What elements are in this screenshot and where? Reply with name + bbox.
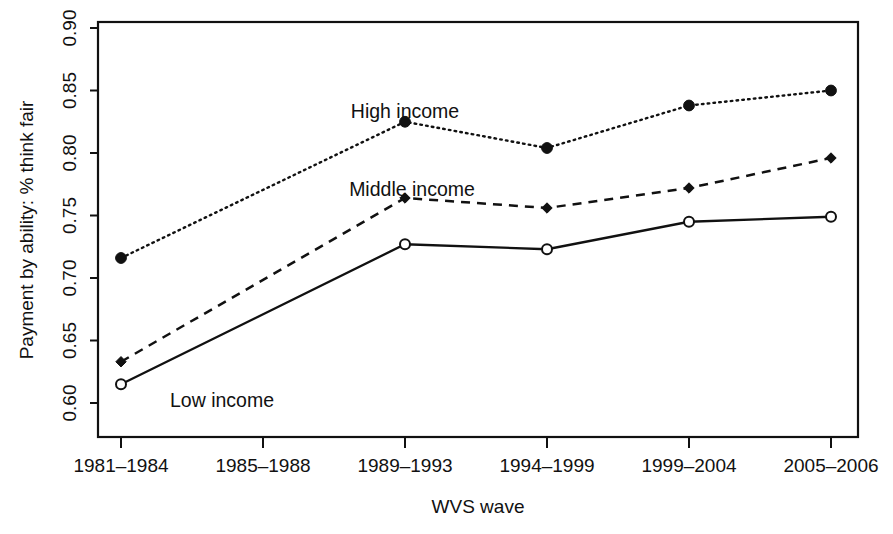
data-point <box>826 153 836 163</box>
x-tick-label-3: 1989–1993 <box>357 455 452 476</box>
data-point <box>116 253 127 264</box>
y-tick-label-0.85: 0.85 <box>59 72 80 109</box>
plot-area-border <box>98 22 858 437</box>
data-point <box>542 244 552 254</box>
y-tick-label-0.70: 0.70 <box>59 260 80 297</box>
y-tick-label-0.65: 0.65 <box>59 322 80 359</box>
series-label-low-income: Low income <box>170 389 274 411</box>
series-label-high-income: High income <box>351 100 459 122</box>
x-axis-ticks <box>121 437 831 448</box>
data-point <box>826 212 836 222</box>
data-point <box>116 379 126 389</box>
y-tick-label-0.75: 0.75 <box>59 197 80 234</box>
x-tick-label-2: 1985–1988 <box>215 455 310 476</box>
x-axis-tick-labels: 1981–1984 1985–1988 1989–1993 1994–1999 … <box>73 455 878 476</box>
chart-figure: 0.90 0.85 0.80 0.75 0.70 0.65 0.60 Payme… <box>0 0 893 534</box>
data-point <box>684 100 695 111</box>
data-point <box>684 217 694 227</box>
data-point <box>542 203 552 213</box>
data-point <box>684 183 694 193</box>
series-label-middle-income: Middle income <box>349 178 475 200</box>
x-axis-title: WVS wave <box>432 496 525 517</box>
y-axis-tick-labels: 0.90 0.85 0.80 0.75 0.70 0.65 0.60 <box>59 10 80 422</box>
series-layer <box>116 85 837 389</box>
data-point <box>542 143 553 154</box>
x-tick-label-1: 1981–1984 <box>73 455 169 476</box>
x-tick-label-4: 1994–1999 <box>499 455 594 476</box>
line-chart: 0.90 0.85 0.80 0.75 0.70 0.65 0.60 Payme… <box>0 0 893 534</box>
y-axis-title: Payment by ability: % think fair <box>16 100 37 359</box>
series-line-high-income <box>121 91 831 259</box>
y-tick-label-0.60: 0.60 <box>59 385 80 422</box>
x-tick-label-6: 2005–2006 <box>783 455 878 476</box>
data-point <box>400 239 410 249</box>
y-tick-label-0.90: 0.90 <box>59 10 80 47</box>
y-tick-label-0.80: 0.80 <box>59 135 80 172</box>
data-point <box>826 85 837 96</box>
series-line-low-income <box>121 217 831 385</box>
data-point <box>116 357 126 367</box>
x-tick-label-5: 1999–2004 <box>641 455 737 476</box>
y-axis-ticks <box>90 28 98 403</box>
